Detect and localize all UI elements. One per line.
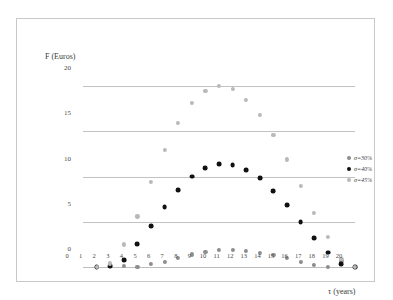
y-axis-title: F (Euros) xyxy=(45,52,75,61)
data-point xyxy=(189,174,194,179)
y-tick-label: 5 xyxy=(37,200,71,208)
gridline xyxy=(83,131,355,132)
data-point xyxy=(299,259,303,263)
gridline xyxy=(83,222,355,223)
data-point xyxy=(135,242,140,247)
x-tick-label: 10 xyxy=(200,252,207,259)
data-point xyxy=(258,113,262,117)
data-point xyxy=(149,224,154,229)
data-point xyxy=(271,189,276,194)
data-point xyxy=(312,211,316,215)
x-tick-label: 17 xyxy=(295,252,302,259)
legend-item: σ=45% xyxy=(347,174,372,185)
legend-label: σ=40% xyxy=(354,166,372,172)
data-point xyxy=(135,265,139,269)
x-tick-label: 12 xyxy=(227,252,234,259)
x-tick-label: 8 xyxy=(174,252,177,259)
data-point xyxy=(257,176,262,181)
data-point xyxy=(135,214,139,218)
legend-label: σ=45% xyxy=(354,177,372,183)
x-tick-label: 3 xyxy=(106,252,109,259)
legend-marker-icon xyxy=(347,178,351,182)
x-tick-label: 6 xyxy=(147,252,150,259)
y-tick-label: 10 xyxy=(37,155,71,163)
data-point xyxy=(217,161,222,166)
x-tick-label: 13 xyxy=(241,252,248,259)
data-point xyxy=(299,183,303,187)
x-tick-label: 1 xyxy=(79,252,82,259)
data-point xyxy=(285,157,289,161)
x-tick-label: 18 xyxy=(309,252,316,259)
legend-marker-icon xyxy=(347,167,351,171)
x-tick-label: 0 xyxy=(65,252,68,259)
x-tick-label: 16 xyxy=(281,252,288,259)
y-tick-label: 20 xyxy=(37,64,71,72)
data-point xyxy=(285,203,290,208)
data-point xyxy=(176,121,180,125)
data-point xyxy=(217,84,221,88)
data-point xyxy=(244,168,249,173)
legend-item: σ=30% xyxy=(347,152,372,163)
x-tick-label: 19 xyxy=(322,252,329,259)
chart-frame: F (Euros) 05101520 012345678910111213141… xyxy=(16,18,375,282)
plot-area xyxy=(83,77,355,267)
data-point xyxy=(326,265,330,269)
x-tick-label: 5 xyxy=(133,252,136,259)
data-point xyxy=(230,162,235,167)
x-tick-label: 11 xyxy=(213,252,219,259)
chart-figure: F (Euros) 05101520 012345678910111213141… xyxy=(0,0,393,300)
data-point xyxy=(162,205,167,210)
data-point xyxy=(203,166,208,171)
data-point xyxy=(149,180,153,184)
data-point xyxy=(244,98,248,102)
legend-marker-icon xyxy=(347,156,351,160)
x-tick-label: 15 xyxy=(268,252,275,259)
x-tick-label: 2 xyxy=(93,252,96,259)
legend-item: σ=40% xyxy=(347,163,372,174)
legend-label: σ=30% xyxy=(354,155,372,161)
chart-legend: σ=30%σ=40%σ=45% xyxy=(347,152,372,185)
data-point xyxy=(163,259,167,263)
data-point xyxy=(190,101,194,105)
data-point xyxy=(176,188,181,193)
data-point xyxy=(149,262,153,266)
data-point xyxy=(326,235,330,239)
x-axis-title: τ (years) xyxy=(328,287,355,296)
data-point xyxy=(163,148,167,152)
data-point xyxy=(122,242,126,246)
data-point xyxy=(231,87,235,91)
x-tick-label: 20 xyxy=(336,252,343,259)
x-tick-label: 7 xyxy=(161,252,164,259)
data-point xyxy=(203,88,207,92)
gridline xyxy=(83,177,355,178)
x-tick-label: 9 xyxy=(188,252,191,259)
data-point xyxy=(298,219,303,224)
y-tick-label: 15 xyxy=(37,109,71,117)
data-point xyxy=(312,236,317,241)
x-tick-label: 14 xyxy=(254,252,261,259)
data-point xyxy=(271,133,275,137)
data-point xyxy=(339,262,344,267)
x-tick-label: 4 xyxy=(120,252,123,259)
